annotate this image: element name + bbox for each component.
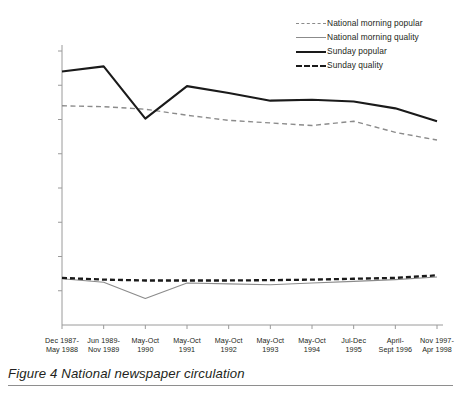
figure-national-newspaper-circulation: National morning popular National mornin… (0, 0, 461, 396)
series-line (62, 106, 437, 140)
figure-caption: Figure 4 National newspaper circulation (8, 366, 453, 381)
x-tick-line-2: Apr 1998 (412, 345, 461, 354)
series-line (62, 66, 437, 121)
chart-plot-area: 02,000,0004,000,0006,000,0008,000,00010,… (0, 0, 461, 360)
x-axis-tick-labels: Dec 1987-May 1988Jun 1989-Nov 1989May-Oc… (0, 330, 461, 360)
x-tick-line-1: Nov 1997- (412, 336, 461, 345)
x-axis-tick-label: Nov 1997-Apr 1998 (412, 336, 461, 355)
figure-caption-block: Figure 4 National newspaper circulation (8, 366, 453, 386)
caption-divider (8, 385, 453, 386)
chart-canvas (0, 0, 461, 360)
